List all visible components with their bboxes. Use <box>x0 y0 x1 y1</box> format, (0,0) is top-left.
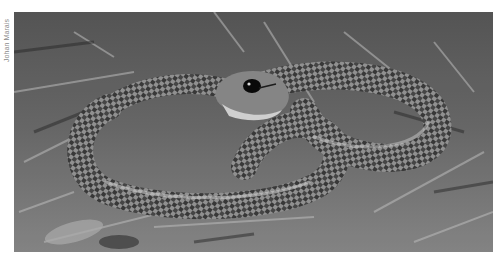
snake-photo-illustration <box>14 12 493 252</box>
photo-credit-text: Johan Marais <box>4 18 11 61</box>
photo-credit: Johan Marais <box>1 10 13 70</box>
snake-photo <box>14 12 493 252</box>
